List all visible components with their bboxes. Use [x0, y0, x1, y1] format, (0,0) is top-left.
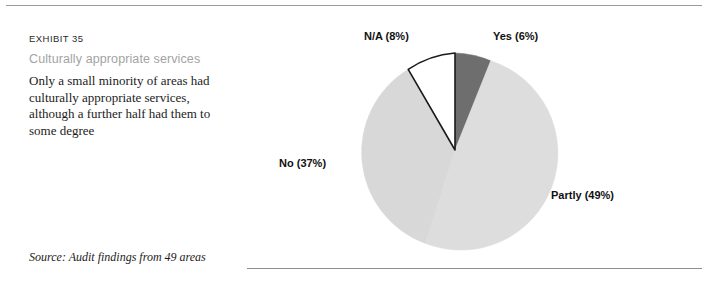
exhibit-container: EXHIBIT 35 Culturally appropriate servic… — [0, 0, 708, 285]
pie-label-no: No (37%) — [279, 157, 326, 169]
pie-label-no-text: No (37%) — [279, 157, 326, 169]
exhibit-title: Culturally appropriate services — [29, 52, 234, 66]
pie-chart-svg — [250, 10, 708, 270]
pie-label-partly: Partly (49%) — [551, 189, 614, 201]
exhibit-number: EXHIBIT 35 — [29, 33, 234, 44]
pie-label-na-text: N/A (8%) — [364, 30, 409, 42]
pie-chart: N/A (8%) Yes (6%) No (37%) Partly (49%) — [250, 10, 708, 270]
pie-label-na: N/A (8%) — [364, 30, 409, 42]
pie-label-partly-text: Partly (49%) — [551, 189, 614, 201]
exhibit-description: Only a small minority of areas had cultu… — [29, 73, 234, 139]
top-divider — [6, 5, 702, 6]
pie-label-yes-text: Yes (6%) — [493, 30, 538, 42]
exhibit-text-column: EXHIBIT 35 Culturally appropriate servic… — [29, 33, 234, 139]
pie-label-yes: Yes (6%) — [493, 30, 538, 42]
source-note: Source: Audit findings from 49 areas — [29, 250, 206, 265]
